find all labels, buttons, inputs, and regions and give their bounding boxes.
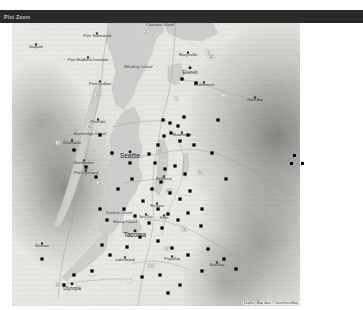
data-point-marker[interactable] xyxy=(94,175,97,178)
data-point-marker[interactable] xyxy=(222,257,225,260)
data-point-marker[interactable] xyxy=(216,118,219,121)
data-point-marker[interactable] xyxy=(176,218,179,221)
data-point-marker[interactable] xyxy=(194,81,197,84)
data-point-marker[interactable] xyxy=(188,189,191,192)
data-point-marker[interactable] xyxy=(116,187,119,190)
data-point-marker[interactable] xyxy=(125,245,128,248)
route-shield-label: 512 xyxy=(148,264,153,268)
data-point-marker[interactable] xyxy=(159,180,162,183)
data-point-marker[interactable] xyxy=(84,165,87,168)
data-point-marker[interactable] xyxy=(40,257,43,260)
route-shield-label: 5 xyxy=(175,97,177,101)
data-point-marker[interactable] xyxy=(178,283,181,286)
route-shield-label: 18 xyxy=(182,228,186,232)
map-major-city-label: Olympia xyxy=(63,286,81,291)
map-major-city-label: Seattle xyxy=(120,152,140,159)
data-point-marker[interactable] xyxy=(176,124,179,127)
data-point-marker[interactable] xyxy=(122,207,125,210)
data-point-marker[interactable] xyxy=(166,212,169,215)
data-point-marker[interactable] xyxy=(166,291,169,294)
data-point-marker[interactable] xyxy=(224,177,227,180)
outlier-point-marker[interactable] xyxy=(290,162,293,165)
map-city-label: Gold Bar xyxy=(247,97,264,102)
data-point-marker[interactable] xyxy=(178,139,181,142)
data-point-marker[interactable] xyxy=(168,191,171,194)
map-canvas[interactable]: Camano IslandWhidbey IslandBainbridge Is… xyxy=(12,23,300,306)
map-geo-label: Camano Island xyxy=(146,23,175,27)
data-point-marker[interactable] xyxy=(160,226,163,229)
data-point-marker[interactable] xyxy=(156,239,159,242)
major-city-dot xyxy=(71,282,74,285)
route-shield-label: 520 xyxy=(157,148,162,152)
data-point-marker[interactable] xyxy=(100,243,103,246)
data-point-marker[interactable] xyxy=(192,143,195,146)
route-shield-label: 101 xyxy=(55,283,60,287)
data-point-marker[interactable] xyxy=(156,143,159,146)
data-point-marker[interactable] xyxy=(62,283,65,286)
data-point-marker[interactable] xyxy=(141,199,144,202)
data-point-marker[interactable] xyxy=(98,133,101,136)
map-city-label: Lakewood xyxy=(115,257,135,262)
data-point-marker[interactable] xyxy=(110,151,113,154)
data-point-marker[interactable] xyxy=(200,207,203,210)
data-point-marker[interactable] xyxy=(170,246,173,249)
data-point-marker[interactable] xyxy=(234,267,237,270)
data-point-marker[interactable] xyxy=(186,253,189,256)
map-geo-label: Bainbridge Island xyxy=(74,131,107,136)
data-point-marker[interactable] xyxy=(180,77,183,80)
data-point-marker[interactable] xyxy=(147,152,150,155)
map-city-label: Bellevue xyxy=(156,176,173,181)
map-city-label: Silverdale xyxy=(63,140,82,145)
outlier-point-marker[interactable] xyxy=(293,154,296,157)
route-shield-label: 104 xyxy=(95,93,100,97)
route-shield-label: 90 xyxy=(198,171,202,175)
data-point-marker[interactable] xyxy=(200,269,203,272)
data-point-marker[interactable] xyxy=(161,118,164,121)
plot-zoom-window: Plot Zoom xyxy=(0,0,363,310)
data-point-marker[interactable] xyxy=(182,115,185,118)
map-city-label: Port Orchard xyxy=(74,170,99,175)
data-point-marker[interactable] xyxy=(178,197,181,200)
data-point-marker[interactable] xyxy=(169,131,172,134)
data-point-marker[interactable] xyxy=(168,121,171,124)
route-shield-label: 532 xyxy=(208,55,213,59)
map-major-city-label: Everett xyxy=(182,70,198,75)
data-point-marker[interactable] xyxy=(206,247,209,250)
data-point-marker[interactable] xyxy=(163,167,166,170)
data-point-marker[interactable] xyxy=(140,275,143,278)
data-point-marker[interactable] xyxy=(150,187,153,190)
data-point-marker[interactable] xyxy=(130,177,133,180)
route-shield-label: 20 xyxy=(144,30,148,34)
map-city-label: Shelton xyxy=(35,243,50,248)
outlier-point-marker[interactable] xyxy=(301,162,304,165)
data-point-marker[interactable] xyxy=(186,133,189,136)
map-major-city-label: Tacoma xyxy=(124,231,147,238)
data-point-marker[interactable] xyxy=(186,211,189,214)
data-point-marker[interactable] xyxy=(108,253,111,256)
data-point-marker[interactable] xyxy=(173,164,176,167)
map-geo-label: Maury Island xyxy=(113,219,138,224)
map-city-label: Port Townsend xyxy=(83,33,111,38)
data-point-marker[interactable] xyxy=(147,221,150,224)
data-point-marker[interactable] xyxy=(133,214,136,217)
data-point-marker[interactable] xyxy=(183,172,186,175)
data-point-marker[interactable] xyxy=(210,151,213,154)
data-point-marker[interactable] xyxy=(156,207,159,210)
data-point-marker[interactable] xyxy=(105,218,108,221)
data-point-marker[interactable] xyxy=(138,235,141,238)
map-city-label: Bremerton xyxy=(74,160,94,165)
data-point-marker[interactable] xyxy=(72,148,75,151)
data-point-marker[interactable] xyxy=(128,161,131,164)
data-point-marker[interactable] xyxy=(162,134,165,137)
data-point-marker[interactable] xyxy=(98,207,101,210)
data-point-marker[interactable] xyxy=(90,269,93,272)
data-point-marker[interactable] xyxy=(158,273,161,276)
data-point-marker[interactable] xyxy=(199,224,202,227)
data-point-marker[interactable] xyxy=(72,273,75,276)
window-title: Plot Zoom xyxy=(0,14,30,20)
data-point-marker[interactable] xyxy=(153,161,156,164)
map-city-label: Puyallup xyxy=(164,256,181,261)
route-shield-label: 16 xyxy=(98,181,102,185)
map-geo-label: Whidbey Island xyxy=(124,64,153,69)
map-city-label: Port Hadlock-Irondale xyxy=(68,57,109,62)
